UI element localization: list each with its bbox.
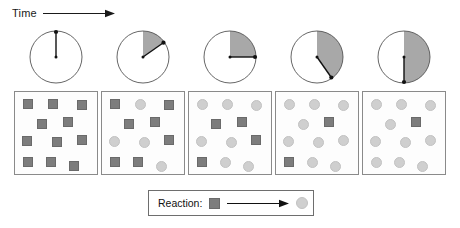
box-step-1: [14, 91, 98, 175]
reactant-particle: [124, 119, 134, 129]
clock-4: [288, 28, 346, 86]
reactant-particle: [110, 157, 120, 167]
box-step-2: [101, 91, 185, 175]
time-arrow-icon: [43, 9, 115, 18]
product-particle: [283, 136, 294, 147]
product-particle: [197, 99, 208, 110]
reactant-particle: [197, 157, 207, 167]
product-particle: [425, 135, 436, 146]
product-particle: [156, 161, 167, 172]
clock-hub: [229, 56, 232, 59]
reactant-particle: [150, 117, 160, 127]
product-particle: [251, 100, 262, 111]
product-particle: [309, 99, 320, 110]
clock-hand-tip: [402, 80, 406, 84]
product-particle: [371, 99, 382, 110]
reactant-particle: [284, 157, 294, 167]
product-particle: [394, 157, 405, 168]
product-particle: [196, 136, 207, 147]
product-particle: [385, 119, 396, 130]
product-particle: [298, 119, 309, 130]
product-particle: [371, 157, 382, 168]
reactant-particle: [63, 117, 73, 127]
reactant-particle: [77, 100, 87, 110]
clock-hub: [55, 56, 58, 59]
box-step-4: [275, 91, 359, 175]
reactant-particle: [211, 119, 221, 129]
reactant-particle: [69, 161, 79, 171]
legend-label: Reaction:: [158, 198, 202, 209]
product-particle: [417, 161, 428, 172]
circle-glyph: [296, 197, 308, 209]
product-particle: [284, 99, 295, 110]
product-particle: [139, 137, 150, 148]
clock-1: [27, 28, 85, 86]
clock-5: [375, 28, 433, 86]
reactant-particle: [237, 117, 247, 127]
reactant-particle: [251, 135, 261, 145]
clock-3: [201, 28, 259, 86]
particle-box-row: [0, 91, 460, 177]
product-particle: [135, 99, 146, 110]
clock-hand-tip: [54, 30, 58, 34]
right-arrow-icon: [227, 199, 289, 208]
reactant-particle: [48, 99, 58, 109]
reactant-particle: [110, 99, 120, 109]
reactant-particle: [52, 137, 62, 147]
reactant-particle: [37, 119, 47, 129]
box-step-3: [188, 91, 272, 175]
clock-hub: [316, 56, 319, 59]
reactant-particle: [23, 99, 33, 109]
box-step-5: [362, 91, 446, 175]
figure-canvas: Time Reaction:: [0, 0, 460, 228]
clock-hand-tip: [253, 55, 257, 59]
reactant-particle: [77, 135, 87, 145]
reactant-particle: [46, 157, 56, 167]
reactant-particle: [23, 157, 33, 167]
clock-hand-tip: [329, 75, 333, 79]
clock-hub: [403, 56, 406, 59]
reactant-particle: [324, 117, 334, 127]
clock-hub: [142, 56, 145, 59]
clock-hand-tip: [161, 41, 165, 45]
clock-elapsed-sector: [404, 31, 430, 83]
product-particle: [220, 157, 231, 168]
time-axis-label: Time: [12, 8, 37, 19]
reactant-particle: [164, 100, 174, 110]
square-glyph: [209, 198, 220, 209]
reactant-particle: [411, 117, 421, 127]
clock-2: [114, 28, 172, 86]
product-particle: [338, 135, 349, 146]
legend: Reaction:: [148, 190, 314, 216]
product-particle: [425, 100, 436, 111]
clock-row: [0, 28, 460, 86]
product-particle: [109, 136, 120, 147]
product-particle: [222, 99, 233, 110]
product-particle: [370, 136, 381, 147]
product-particle: [396, 99, 407, 110]
product-particle: [338, 100, 349, 111]
product-particle: [330, 161, 341, 172]
product-particle: [313, 137, 324, 148]
product-particle: [400, 137, 411, 148]
product-particle: [307, 157, 318, 168]
product-particle: [243, 161, 254, 172]
reactant-particle: [22, 136, 32, 146]
product-particle: [226, 137, 237, 148]
time-axis: Time: [12, 8, 115, 19]
reactant-particle: [133, 157, 143, 167]
reactant-particle: [164, 135, 174, 145]
